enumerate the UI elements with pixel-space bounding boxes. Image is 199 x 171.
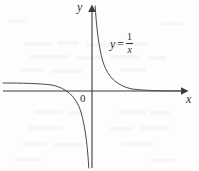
hyperbola-branch-quadrant-3 xyxy=(3,83,89,168)
x-axis-label: x xyxy=(186,93,191,105)
axes-and-curve-layer xyxy=(0,0,199,171)
y-axis-label: y xyxy=(77,1,82,13)
equation-equals-sign: = xyxy=(117,38,124,50)
equation-fraction: 1 x xyxy=(126,32,133,55)
fraction-numerator: 1 xyxy=(126,32,133,43)
y-axis-arrowhead xyxy=(88,5,96,13)
equation-lhs: y xyxy=(110,38,115,50)
origin-label: 0 xyxy=(80,93,86,104)
equation-label: y = 1 x xyxy=(110,32,133,55)
hyperbola-branch-quadrant-1 xyxy=(95,6,182,91)
graph-figure: y x 0 y = 1 x xyxy=(0,0,199,171)
fraction-denominator: x xyxy=(126,44,132,55)
